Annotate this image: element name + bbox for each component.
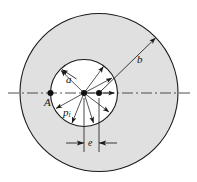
figure-container: b a A pi e: [0, 0, 197, 182]
label-internal-pressure-subscript: i: [69, 110, 71, 119]
inner-center-dot: [81, 90, 87, 96]
cross-section-svg: [0, 0, 197, 182]
label-outer-radius-b: b: [137, 54, 143, 65]
label-inner-radius-a: a: [66, 74, 72, 85]
label-internal-pressure: pi: [63, 107, 71, 119]
label-eccentricity-e: e: [88, 138, 92, 148]
outer-center-dot: [96, 90, 102, 96]
label-point-A: A: [44, 97, 51, 108]
